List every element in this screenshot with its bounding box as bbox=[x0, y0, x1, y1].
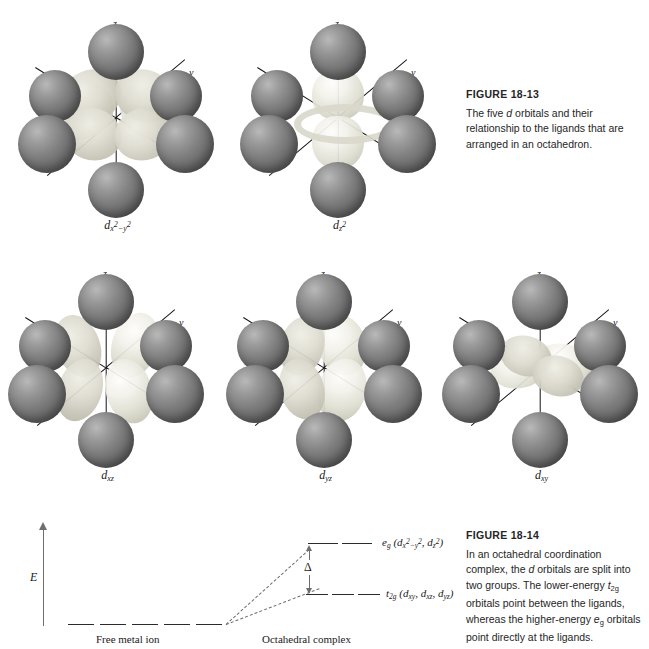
orbital-diagram-dyz: z y x dyz bbox=[218, 262, 433, 497]
orbital-label-dxz: dxz bbox=[0, 468, 215, 483]
orbital-stage: z y x bbox=[10, 12, 225, 217]
orbital-stage: z y x bbox=[434, 262, 649, 467]
ligand-sphere-x-back bbox=[226, 365, 284, 423]
ligand-sphere-z-top bbox=[310, 24, 366, 80]
ligand-sphere-x-back bbox=[18, 115, 76, 173]
orbital-label-dx2y2: dx2−y2 bbox=[10, 218, 225, 233]
figure-body-18-14: In an octahedral coordination complex, t… bbox=[466, 547, 642, 646]
ligand-sphere-z-top bbox=[88, 24, 144, 80]
ligand-sphere-y-front bbox=[358, 320, 410, 372]
ligand-sphere-z-bottom bbox=[296, 412, 352, 468]
free-ion-level bbox=[100, 624, 126, 625]
orbital-label-dz2: dz2 bbox=[232, 218, 447, 233]
orbital-diagram-dxy: z y x dxy bbox=[434, 262, 649, 497]
ligand-sphere-z-top bbox=[512, 274, 568, 330]
t2g-level bbox=[358, 594, 380, 595]
orbital-stage: z y x bbox=[0, 262, 215, 467]
eg-term-label: eg (dx2−y2, dz2) bbox=[382, 536, 443, 550]
orbital-stage: z y x bbox=[218, 262, 433, 467]
octahedral-complex-caption: Octahedral complex bbox=[262, 633, 351, 645]
ligand-sphere-x-back bbox=[8, 365, 66, 423]
ligand-sphere-y-back bbox=[237, 320, 289, 372]
ligand-sphere-y-back bbox=[29, 70, 81, 122]
ligand-sphere-x-front bbox=[378, 115, 436, 173]
figure-title-18-13: FIGURE 18-13 bbox=[466, 87, 642, 103]
ligand-sphere-y-front bbox=[150, 70, 202, 122]
free-ion-level bbox=[164, 624, 190, 625]
ligand-sphere-z-bottom bbox=[78, 412, 134, 468]
free-ion-level bbox=[132, 624, 158, 625]
ligand-sphere-x-front bbox=[146, 365, 204, 423]
orbital-diagram-dxz: z y x dxz bbox=[0, 262, 215, 497]
energy-axis-line bbox=[43, 528, 44, 626]
ligand-sphere-y-back bbox=[19, 320, 71, 372]
orbital-label-dxy: dxy bbox=[434, 468, 649, 483]
ligand-sphere-y-back bbox=[251, 70, 303, 122]
t2g-level bbox=[306, 594, 328, 595]
eg-level bbox=[342, 543, 372, 544]
orbital-diagram-dz2: z y x dz2 bbox=[232, 12, 447, 247]
ligand-sphere-x-front bbox=[580, 365, 638, 423]
ligand-sphere-z-top bbox=[78, 274, 134, 330]
ligand-sphere-z-top bbox=[296, 274, 352, 330]
delta-symbol: Δ bbox=[302, 560, 314, 575]
ligand-sphere-z-bottom bbox=[310, 162, 366, 218]
ligand-sphere-z-bottom bbox=[512, 412, 568, 468]
delta-arrow-down-icon bbox=[306, 588, 312, 594]
orbital-label-dyz: dyz bbox=[218, 468, 433, 483]
free-ion-level bbox=[68, 624, 94, 625]
ligand-sphere-y-front bbox=[140, 320, 192, 372]
t2g-term-label: t2g (dxy, dxz, dyz) bbox=[386, 587, 453, 601]
figure-body-18-13: The five d orbitals and their relationsh… bbox=[466, 106, 642, 153]
ligand-sphere-x-front bbox=[156, 115, 214, 173]
free-ion-level bbox=[196, 624, 222, 625]
energy-level-diagram: E Δ eg (dx2−y2, dz2) t2g (dxy, dxz, dyz)… bbox=[20, 498, 450, 643]
ligand-sphere-x-back bbox=[442, 365, 500, 423]
ligand-sphere-z-bottom bbox=[88, 162, 144, 218]
ligand-sphere-y-front bbox=[574, 320, 626, 372]
ligand-sphere-y-front bbox=[372, 70, 424, 122]
eg-level bbox=[308, 543, 338, 544]
orbital-stage: z y x bbox=[232, 12, 447, 217]
figure-caption-18-13: FIGURE 18-13 The five d orbitals and the… bbox=[466, 87, 642, 152]
orbital-diagram-dx2y2: z y x dx2−y2 bbox=[10, 12, 225, 247]
free-metal-ion-caption: Free metal ion bbox=[96, 633, 160, 645]
connector-to-eg bbox=[226, 549, 310, 625]
ligand-sphere-x-back bbox=[240, 115, 298, 173]
ligand-sphere-y-back bbox=[453, 320, 505, 372]
figure-caption-18-14: FIGURE 18-14 In an octahedral coordinati… bbox=[466, 528, 642, 646]
figure-title-18-14: FIGURE 18-14 bbox=[466, 528, 642, 544]
ligand-sphere-x-front bbox=[364, 365, 422, 423]
t2g-level bbox=[332, 594, 354, 595]
energy-axis-label: E bbox=[30, 570, 37, 585]
